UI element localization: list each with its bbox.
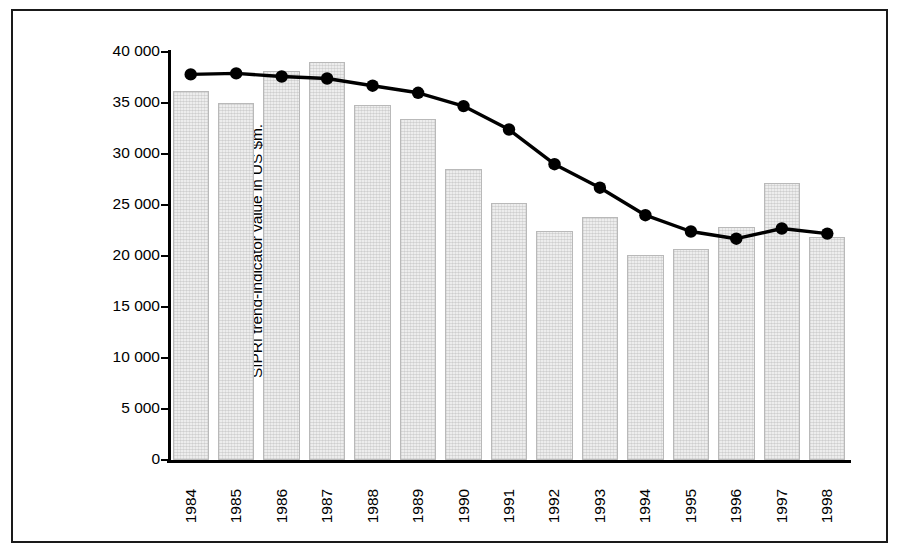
bar: [809, 237, 845, 460]
bar: [218, 103, 254, 460]
bar: [263, 71, 299, 460]
x-axis-tick-label: 1996: [728, 473, 744, 539]
y-axis-tick-label: 5 000: [52, 399, 160, 417]
y-axis-tick-label: 0: [52, 450, 160, 468]
x-axis-tick-label: 1988: [365, 473, 381, 539]
x-axis-tick-label: 1993: [592, 473, 608, 539]
y-axis-tick-label: 20 000: [52, 246, 160, 264]
x-axis-tick-label: 1991: [501, 473, 517, 539]
x-axis-tick-label: 1985: [228, 473, 244, 539]
bar: [627, 255, 663, 460]
y-axis-tick-label: 15 000: [52, 297, 160, 315]
x-axis-line: [167, 460, 851, 463]
y-axis-tick-label: 10 000: [52, 348, 160, 366]
x-axis-tick-label: 1992: [546, 473, 562, 539]
bar: [445, 169, 481, 460]
y-axis-tick-label: 30 000: [52, 144, 160, 162]
chart-figure: SIPRI trend-indicator value in US $m. at…: [0, 0, 901, 555]
x-axis-tick-label: 1998: [819, 473, 835, 539]
x-axis-tick-label: 1995: [683, 473, 699, 539]
y-axis-line: [168, 50, 171, 462]
y-axis-tick-labels: 05 00010 00015 00020 00025 00030 00035 0…: [44, 0, 160, 555]
x-axis-tick-label: 1986: [274, 473, 290, 539]
x-axis-tick-label: 1990: [456, 473, 472, 539]
x-axis-tick-label: 1987: [319, 473, 335, 539]
bar: [354, 105, 390, 460]
bar: [173, 91, 209, 460]
bar: [764, 183, 800, 460]
x-axis-tick-label: 1984: [183, 473, 199, 539]
bar: [582, 217, 618, 460]
bar: [491, 203, 527, 460]
x-axis-tick-label: 1997: [774, 473, 790, 539]
bar: [536, 231, 572, 461]
y-axis-tick-label: 25 000: [52, 195, 160, 213]
bar: [673, 249, 709, 460]
y-axis-tick-label: 40 000: [52, 42, 160, 60]
y-axis-tick-label: 35 000: [52, 93, 160, 111]
x-axis-tick-label: 1989: [410, 473, 426, 539]
bar: [718, 227, 754, 460]
bar: [400, 119, 436, 460]
bar: [309, 62, 345, 460]
x-axis-tick-label: 1994: [637, 473, 653, 539]
